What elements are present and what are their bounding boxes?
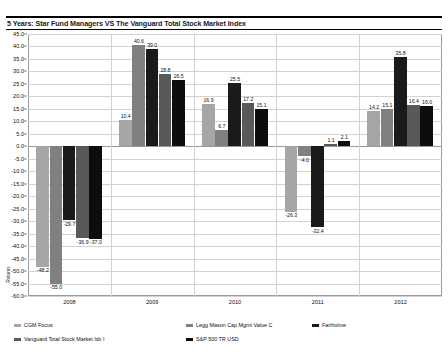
- bar: [324, 144, 337, 147]
- y-axis-tick-label: -60.0: [11, 293, 24, 299]
- x-axis-tick-label: 2009: [146, 299, 158, 305]
- bar-value-label: 16.0: [422, 99, 432, 105]
- gridline: [28, 271, 442, 272]
- bar: [367, 111, 380, 146]
- bar-value-label: 1.1: [327, 137, 334, 143]
- y-axis-tick-mark: [24, 34, 27, 35]
- bar: [119, 120, 132, 146]
- y-axis-tick-mark: [24, 171, 27, 172]
- y-axis-tick-mark: [24, 246, 27, 247]
- legend-swatch-icon: [14, 338, 21, 341]
- y-axis-tick-mark: [24, 46, 27, 47]
- y-axis-tick-label: -45.0: [11, 256, 24, 262]
- legend-item[interactable]: S&P 500 TR USD: [186, 336, 239, 342]
- legend-item[interactable]: CGM Focus: [14, 322, 53, 328]
- gridline: [28, 284, 442, 285]
- title-bottom-rule: [6, 29, 442, 30]
- gridline: [28, 246, 442, 247]
- y-axis-tick-mark: [24, 158, 27, 159]
- category-separator: [276, 34, 277, 296]
- gridline: [28, 34, 442, 35]
- bar-value-label: 15.1: [382, 102, 392, 108]
- y-axis-tick-mark: [24, 133, 27, 134]
- category-separator: [194, 34, 195, 296]
- y-axis-tick-label: 10.0: [13, 118, 24, 124]
- chart-page: 5 Years: Star Fund Managers VS The Vangu…: [0, 0, 448, 360]
- bar-value-label: 35.8: [396, 50, 406, 56]
- legend-label: Legg Mason Cap Mgmt Value C: [196, 322, 272, 328]
- bar-value-label: -48.2: [37, 267, 49, 273]
- y-axis-tick-label: 5.0: [16, 131, 24, 137]
- bar-value-label: -26.3: [285, 212, 297, 218]
- bar: [298, 146, 311, 156]
- x-axis-tick-label: 2008: [63, 299, 75, 305]
- y-axis-tick-label: -40.0: [11, 243, 24, 249]
- y-axis-tick-label: -50.0: [11, 268, 24, 274]
- y-axis-tick-mark: [24, 121, 27, 122]
- title-top-rule: [6, 16, 442, 18]
- y-axis-tick-mark: [24, 71, 27, 72]
- bar: [36, 146, 49, 266]
- bar-value-label: 17.2: [243, 96, 253, 102]
- x-axis: 20082009201020112012: [28, 299, 442, 311]
- x-axis-tick-label: 2012: [394, 299, 406, 305]
- bar: [285, 146, 298, 212]
- y-axis-tick-mark: [24, 196, 27, 197]
- legend-label: CGM Focus: [24, 322, 53, 328]
- category-separator: [359, 34, 360, 296]
- plot-area: -48.2-55.0-29.7-36.9-37.010.440.639.028.…: [28, 34, 442, 296]
- bar: [338, 141, 351, 146]
- bar-value-label: 16.9: [203, 97, 213, 103]
- legend-swatch-icon: [186, 338, 193, 341]
- bar: [50, 146, 63, 283]
- y-axis-tick-mark: [24, 258, 27, 259]
- bar-value-label: -36.9: [77, 239, 89, 245]
- bar: [228, 83, 241, 147]
- bar: [242, 103, 255, 146]
- bar-value-label: -37.0: [90, 239, 102, 245]
- y-axis-tick-label: 45.0: [13, 31, 24, 37]
- y-axis-tick-mark: [24, 146, 27, 147]
- bar: [255, 109, 268, 147]
- y-axis-tick-label: -5.0: [14, 156, 24, 162]
- legend-label: Vanguard Total Stock Market Idx I: [24, 336, 104, 342]
- y-axis-tick-mark: [24, 271, 27, 272]
- gridline: [28, 46, 442, 47]
- y-axis-tick-label: -30.0: [11, 218, 24, 224]
- bar: [132, 45, 145, 146]
- bar: [394, 57, 407, 146]
- y-axis-tick-mark: [24, 58, 27, 59]
- bar: [202, 104, 215, 146]
- bar-value-label: -55.0: [50, 284, 62, 290]
- y-axis-tick-mark: [24, 233, 27, 234]
- legend-item[interactable]: Legg Mason Cap Mgmt Value C: [186, 322, 272, 328]
- bar-value-label: 16.4: [409, 98, 419, 104]
- bar: [159, 74, 172, 146]
- bar: [63, 146, 76, 220]
- y-axis-tick-label: 25.0: [13, 81, 24, 87]
- bar-value-label: 10.4: [121, 113, 131, 119]
- y-axis: 45.040.035.030.025.020.015.010.05.00.0-5…: [0, 34, 27, 296]
- y-axis-tick-mark: [24, 283, 27, 284]
- y-axis-tick-label: -10.0: [11, 168, 24, 174]
- bar-value-label: 28.8: [160, 67, 170, 73]
- bar-value-label: 26.5: [174, 73, 184, 79]
- gridline: [28, 259, 442, 260]
- bar-value-label: 25.5: [230, 76, 240, 82]
- bar-value-label: -29.7: [63, 221, 75, 227]
- y-axis-tick-mark: [24, 96, 27, 97]
- bar: [76, 146, 89, 238]
- legend-label: Fairholme: [322, 322, 346, 328]
- legend-item[interactable]: Vanguard Total Stock Market Idx I: [14, 336, 104, 342]
- y-axis-tick-label: -20.0: [11, 193, 24, 199]
- y-axis-tick-mark: [24, 221, 27, 222]
- bar-value-label: 2.1: [341, 134, 348, 140]
- x-axis-tick-label: 2010: [229, 299, 241, 305]
- legend-item[interactable]: Fairholme: [312, 322, 346, 328]
- y-axis-tick-label: -25.0: [11, 206, 24, 212]
- bar: [407, 105, 420, 146]
- bar: [146, 49, 159, 146]
- y-axis-title: Returns: [6, 253, 11, 297]
- y-axis-tick-label: -15.0: [11, 181, 24, 187]
- gridline: [28, 59, 442, 60]
